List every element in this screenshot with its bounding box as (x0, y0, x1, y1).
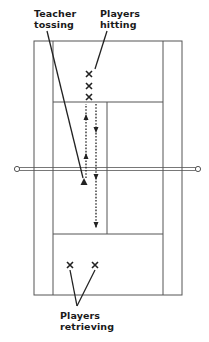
retrievers-leader-line-left (70, 270, 77, 306)
tennis-court-diagram (0, 0, 209, 342)
court-outer-boundary (34, 41, 182, 295)
teacher-tossing-label: Teacher tossing (34, 8, 76, 30)
teacher-triangle-icon (81, 178, 88, 185)
label-line: retrieving (60, 321, 114, 332)
arrow-down-icon (94, 222, 99, 228)
label-line: tossing (34, 19, 76, 30)
players-hitting-label: Players hitting (100, 8, 140, 30)
hitters-leader-line (95, 31, 107, 69)
net-post-right (195, 166, 200, 171)
label-line: Players (100, 8, 140, 19)
retrievers-leader-line-right (77, 270, 95, 306)
arrow-up-icon (84, 153, 89, 159)
hitting-players (86, 71, 92, 100)
teacher-leader-line (47, 31, 83, 178)
players-retrieving-label: Players retrieving (60, 310, 114, 332)
label-line: hitting (100, 19, 140, 30)
label-line: Players (60, 310, 114, 321)
court (34, 41, 182, 295)
arrow-down-icon (94, 127, 99, 133)
ball-paths (86, 104, 96, 228)
arrow-down-icon (94, 174, 99, 180)
leader-lines (47, 31, 107, 306)
net-post-left (14, 166, 19, 171)
label-line: Teacher (34, 8, 76, 19)
arrow-up-icon (84, 114, 89, 120)
retrieving-players (67, 262, 98, 268)
